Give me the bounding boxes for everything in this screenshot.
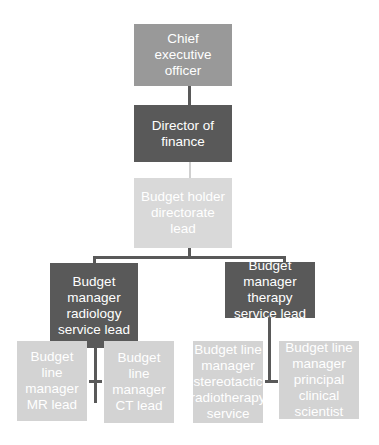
node-label: Budget line manager stereotactic radioth… <box>190 342 265 422</box>
node-budget-holder: Budget holder directorate lead <box>134 178 232 248</box>
node-therapy-manager: Budget manager therapy service lead <box>225 262 315 318</box>
node-ct-lead: Budget line manager CT lead <box>104 341 174 423</box>
node-label: Budget line manager MR lead <box>21 349 83 413</box>
node-label: Chief executive officer <box>138 31 228 79</box>
node-label: Director of finance <box>138 118 228 150</box>
connector-finance-budget-holder <box>189 162 191 178</box>
node-label: Budget line manager principal clinical s… <box>283 340 355 420</box>
node-stereotactic-manager: Budget line manager stereotactic radioth… <box>193 341 263 423</box>
node-mr-lead: Budget line manager MR lead <box>17 341 87 421</box>
node-director-of-finance: Director of finance <box>134 105 232 162</box>
node-radiology-manager: Budget manager radiology service lead <box>50 263 138 348</box>
connector-therapy-branch <box>265 380 278 383</box>
connector-radiology-branch <box>89 380 102 383</box>
node-label: Budget line manager CT lead <box>108 350 170 414</box>
node-chief-executive-officer: Chief executive officer <box>134 24 232 86</box>
connector-ceo-finance <box>188 86 191 105</box>
node-label: Budget holder directorate lead <box>138 189 228 237</box>
node-label: Budget manager radiology service lead <box>54 274 134 338</box>
node-clinical-scientist: Budget line manager principal clinical s… <box>279 341 359 419</box>
connector-therapy-down <box>268 318 271 383</box>
node-label: Budget manager therapy service lead <box>229 258 311 322</box>
connector-radiology-down <box>94 348 97 403</box>
